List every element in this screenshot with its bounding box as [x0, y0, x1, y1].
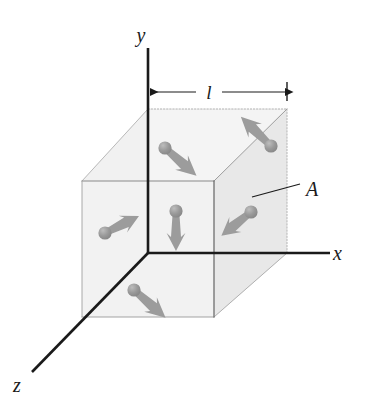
molecule-ball: [98, 226, 111, 239]
molecule-ball: [127, 283, 140, 296]
molecule-ball: [169, 204, 182, 217]
molecule-ball: [244, 205, 257, 218]
molecule-ball: [158, 141, 171, 154]
molecule-ball: [264, 139, 277, 152]
dimension-label: l: [206, 82, 211, 103]
x-axis-label: x: [332, 242, 342, 264]
area-label: A: [304, 178, 319, 200]
dimension-line-group: [150, 82, 287, 101]
z-axis-label: z: [12, 374, 21, 396]
figure-container: y x z l A: [0, 0, 367, 414]
y-axis-label: y: [135, 24, 146, 47]
cube-diagram: y x z l A: [0, 0, 367, 414]
